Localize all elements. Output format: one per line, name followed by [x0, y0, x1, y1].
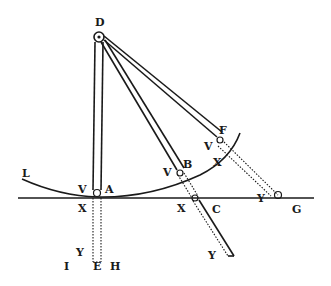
label-H: H	[110, 260, 120, 273]
label-E: E	[93, 260, 101, 273]
label-B: B	[183, 158, 192, 171]
label-V-right: V	[203, 140, 213, 153]
pivot-center	[97, 35, 100, 38]
dotted-F-lower	[218, 146, 271, 196]
dotted-F-upper	[224, 142, 278, 195]
rod-F-left	[104, 40, 217, 137]
rod-B-right	[105, 40, 184, 168]
pendulum-diagram: D L V A X Y I E H V B X C Y V F X Y G	[0, 0, 331, 286]
label-C: C	[212, 203, 221, 216]
label-V-left: V	[77, 183, 87, 196]
label-X-right: X	[213, 156, 222, 169]
label-Y-right: Y	[256, 192, 265, 205]
rod-CY-left	[193, 201, 228, 256]
bob-A	[94, 190, 101, 197]
label-Y-mid: Y	[207, 249, 216, 262]
label-F: F	[219, 124, 227, 137]
rod-F-right	[104, 36, 222, 132]
label-Y-left: Y	[75, 246, 84, 259]
label-V-mid: V	[162, 166, 172, 179]
label-X-mid: X	[177, 202, 186, 215]
bob-F	[217, 137, 223, 143]
label-D: D	[95, 16, 105, 29]
label-I: I	[64, 260, 69, 273]
label-A: A	[104, 183, 114, 196]
rod-vertical-right	[101, 42, 103, 190]
rod-B-left	[101, 42, 177, 170]
label-L: L	[22, 167, 30, 180]
dotted-B-left	[178, 175, 192, 198]
label-G: G	[292, 203, 301, 216]
label-X-left: X	[78, 202, 87, 215]
rod-vertical-left	[93, 42, 95, 190]
